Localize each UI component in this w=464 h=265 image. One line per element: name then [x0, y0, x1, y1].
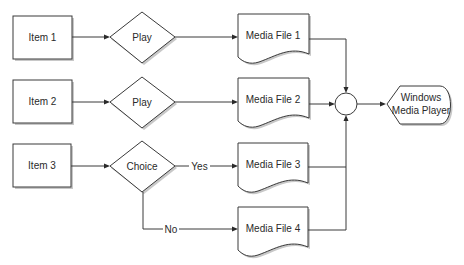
node-windows-media-player: Windows Media Player [387, 86, 453, 126]
edge-media3-junction [308, 118, 346, 167]
arrowhead-icon [104, 164, 110, 169]
edge-media4-junction [308, 167, 346, 230]
node-media-file-2-label: Media File 2 [246, 94, 301, 105]
node-play-1-label: Play [132, 32, 151, 43]
arrowhead-icon [380, 102, 386, 107]
node-play-2: Play [110, 77, 177, 130]
node-media-file-4-label: Media File 4 [246, 223, 301, 234]
arrowhead-icon [344, 87, 349, 93]
node-wmp-label-line1: Windows [401, 92, 442, 103]
edge-choice-media4 [143, 192, 235, 229]
node-play-2-label: Play [132, 97, 151, 108]
node-wmp-label-line2: Media Player [392, 105, 451, 116]
arrowhead-icon [104, 35, 110, 40]
node-media-file-3: Media File 3 [238, 143, 310, 194]
node-item-2-label: Item 2 [29, 96, 57, 107]
node-item-3: Item 3 [13, 144, 73, 189]
edge-label-yes: Yes [191, 161, 207, 172]
edge-label-no: No [165, 224, 178, 235]
arrowhead-icon [232, 164, 238, 169]
node-media-file-3-label: Media File 3 [246, 159, 301, 170]
edge-media1-junction [309, 39, 346, 90]
node-item-3-label: Item 3 [28, 160, 56, 171]
node-choice: Choice [110, 141, 177, 194]
node-item-2: Item 2 [13, 80, 74, 125]
node-choice-label: Choice [126, 161, 158, 172]
arrowhead-icon [344, 115, 349, 121]
node-item-1: Item 1 [13, 16, 74, 61]
node-junction [335, 93, 357, 115]
arrowhead-icon [329, 102, 335, 107]
node-media-file-2: Media File 2 [238, 78, 311, 129]
flowchart-diagram: Item 1 Play Media File 1 Item 2 Play Med… [0, 0, 464, 265]
arrowhead-icon [232, 227, 238, 232]
node-media-file-1: Media File 1 [238, 14, 311, 65]
arrowhead-icon [104, 100, 110, 105]
node-media-file-4: Media File 4 [238, 207, 310, 258]
node-play-1: Play [110, 12, 177, 65]
arrowhead-icon [232, 35, 238, 40]
node-item-1-label: Item 1 [29, 32, 57, 43]
arrowhead-icon [232, 100, 238, 105]
node-media-file-1-label: Media File 1 [246, 30, 301, 41]
